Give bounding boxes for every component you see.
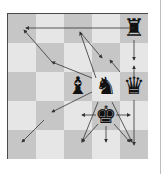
board-square xyxy=(36,130,64,159)
queen-piece: ♛ xyxy=(120,72,148,101)
board-square xyxy=(120,101,148,130)
board-square xyxy=(36,43,64,72)
board-square xyxy=(120,43,148,72)
board-square xyxy=(92,130,120,159)
board-square xyxy=(8,14,36,43)
knight-piece: ♞ xyxy=(92,72,120,101)
board-square xyxy=(120,130,148,159)
bishop-piece: ♝ xyxy=(64,72,92,101)
board-square xyxy=(64,14,92,43)
board-square xyxy=(92,43,120,72)
divider-line xyxy=(160,0,161,174)
board-square xyxy=(36,14,64,43)
rook-piece: ♜ xyxy=(120,14,148,43)
board-square xyxy=(8,43,36,72)
board-square xyxy=(64,130,92,159)
board-square xyxy=(36,101,64,130)
board-square xyxy=(64,101,92,130)
king-piece: ♚ xyxy=(92,101,120,130)
board-square xyxy=(92,14,120,43)
board-square xyxy=(8,130,36,159)
board-square xyxy=(8,101,36,130)
chess-board: ♜♝♞♛♚ xyxy=(8,14,147,158)
board-square xyxy=(8,72,36,101)
board-square xyxy=(64,43,92,72)
board-square xyxy=(36,72,64,101)
